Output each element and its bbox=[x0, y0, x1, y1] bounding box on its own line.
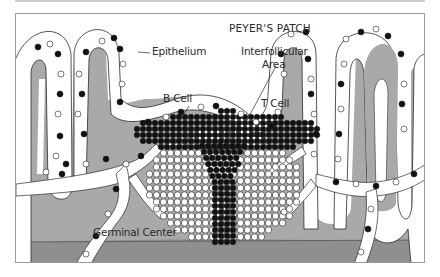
diagram-canvas bbox=[16, 14, 425, 263]
label-germinal-center: Germinal Center bbox=[93, 226, 177, 238]
label-interfollicular-line2: Area bbox=[262, 58, 285, 70]
diagram-title: PEYER'S PATCH bbox=[229, 22, 311, 34]
top-rule bbox=[15, 0, 425, 2]
label-t-cell: T Cell bbox=[261, 97, 289, 109]
peyers-patch-diagram: PEYER'S PATCH Epithelium Interfollicular… bbox=[15, 13, 425, 263]
label-b-cell: B Cell bbox=[163, 92, 192, 104]
label-epithelium: Epithelium bbox=[152, 45, 206, 57]
label-interfollicular-line1: Interfollicular bbox=[241, 45, 308, 57]
